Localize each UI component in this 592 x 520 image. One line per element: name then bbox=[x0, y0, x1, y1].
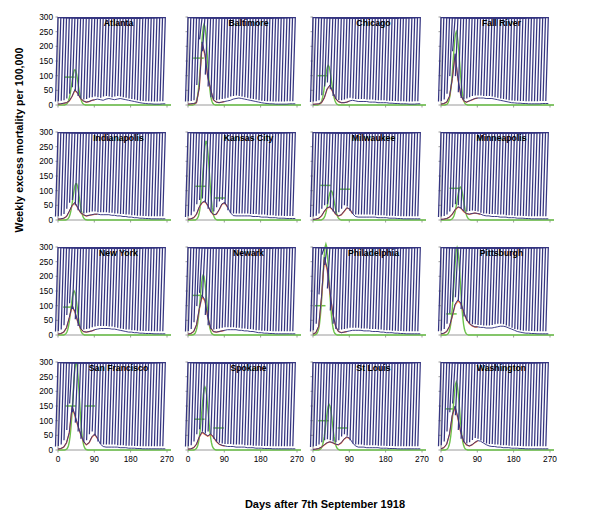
panel-title-milwaukee: Milwaukee bbox=[317, 133, 430, 143]
y-tick-label: 200 bbox=[27, 156, 53, 166]
x-tick-label: 270 bbox=[157, 454, 177, 464]
panel-title-indianapolis: Indianapolis bbox=[62, 133, 175, 143]
panel-title-pittsburgh: Pittsburgh bbox=[445, 248, 558, 258]
y-tick-label: 0 bbox=[27, 330, 53, 340]
panel-title-washington: Washington bbox=[445, 363, 558, 373]
y-tick-label: 100 bbox=[27, 186, 53, 196]
panel-minneapolis bbox=[441, 132, 560, 226]
x-tick-label: 0 bbox=[431, 454, 451, 464]
panel-fall-river bbox=[441, 17, 560, 111]
x-axis-title: Days after 7th September 1918 bbox=[0, 498, 592, 510]
panel-san-francisco bbox=[58, 362, 177, 456]
y-tick-label: 50 bbox=[27, 430, 53, 440]
y-tick-label: 150 bbox=[27, 286, 53, 296]
x-tick-label: 180 bbox=[504, 454, 524, 464]
panel-spokane bbox=[188, 362, 307, 456]
panel-kansas-city bbox=[188, 132, 307, 226]
y-axis-title: Weekly excess mortality per 100,000 bbox=[13, 20, 25, 260]
x-tick-label: 180 bbox=[121, 454, 141, 464]
x-tick-label: 270 bbox=[540, 454, 560, 464]
y-tick-label: 250 bbox=[27, 142, 53, 152]
panel-chicago bbox=[313, 17, 432, 111]
panel-title-new-york: New York bbox=[62, 248, 175, 258]
panel-title-atlanta: Atlanta bbox=[62, 18, 175, 28]
y-tick-label: 250 bbox=[27, 257, 53, 267]
x-tick-label: 0 bbox=[178, 454, 198, 464]
panel-title-chicago: Chicago bbox=[317, 18, 430, 28]
y-tick-label: 200 bbox=[27, 41, 53, 51]
x-tick-label: 180 bbox=[251, 454, 271, 464]
x-tick-label: 180 bbox=[376, 454, 396, 464]
panel-atlanta bbox=[58, 17, 177, 111]
y-tick-label: 50 bbox=[27, 200, 53, 210]
y-axis-title-wrap: Weekly excess mortality per 100,000 bbox=[14, 120, 28, 380]
y-tick-label: 100 bbox=[27, 301, 53, 311]
y-tick-label: 100 bbox=[27, 416, 53, 426]
y-tick-label: 300 bbox=[27, 242, 53, 252]
panel-title-minneapolis: Minneapolis bbox=[445, 133, 558, 143]
x-tick-label: 90 bbox=[214, 454, 234, 464]
y-tick-label: 150 bbox=[27, 56, 53, 66]
panel-pittsburgh bbox=[441, 247, 560, 341]
figure-canvas: Weekly excess mortality per 100,000 Days… bbox=[0, 0, 592, 520]
x-tick-label: 0 bbox=[303, 454, 323, 464]
panel-title-st-louis: St Louis bbox=[317, 363, 430, 373]
y-tick-label: 250 bbox=[27, 372, 53, 382]
panel-baltimore bbox=[188, 17, 307, 111]
panel-title-fall-river: Fall River bbox=[445, 18, 558, 28]
x-tick-label: 270 bbox=[412, 454, 432, 464]
y-tick-label: 200 bbox=[27, 271, 53, 281]
panel-title-newark: Newark bbox=[192, 248, 305, 258]
y-tick-label: 300 bbox=[27, 357, 53, 367]
y-tick-label: 50 bbox=[27, 85, 53, 95]
panel-washington bbox=[441, 362, 560, 456]
panel-title-spokane: Spokane bbox=[192, 363, 305, 373]
panel-title-philadelphia: Philadelphia bbox=[317, 248, 430, 258]
x-tick-label: 90 bbox=[467, 454, 487, 464]
y-tick-label: 100 bbox=[27, 71, 53, 81]
x-tick-label: 0 bbox=[48, 454, 68, 464]
panel-title-kansas-city: Kansas City bbox=[192, 133, 305, 143]
y-tick-label: 300 bbox=[27, 127, 53, 137]
panel-milwaukee bbox=[313, 132, 432, 226]
y-tick-label: 300 bbox=[27, 12, 53, 22]
y-tick-label: 0 bbox=[27, 215, 53, 225]
y-tick-label: 250 bbox=[27, 27, 53, 37]
y-tick-label: 50 bbox=[27, 315, 53, 325]
y-tick-label: 0 bbox=[27, 100, 53, 110]
panel-indianapolis bbox=[58, 132, 177, 226]
panel-newark bbox=[188, 247, 307, 341]
panel-new-york bbox=[58, 247, 177, 341]
y-tick-label: 200 bbox=[27, 386, 53, 396]
panel-philadelphia bbox=[313, 247, 432, 341]
y-tick-label: 150 bbox=[27, 171, 53, 181]
panel-st-louis bbox=[313, 362, 432, 456]
x-axis-title-text: Days after 7th September 1918 bbox=[245, 498, 405, 510]
panel-title-san-francisco: San Francisco bbox=[62, 363, 175, 373]
panel-title-baltimore: Baltimore bbox=[192, 18, 305, 28]
x-tick-label: 90 bbox=[84, 454, 104, 464]
y-tick-label: 150 bbox=[27, 401, 53, 411]
x-tick-label: 90 bbox=[339, 454, 359, 464]
